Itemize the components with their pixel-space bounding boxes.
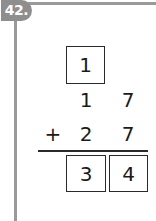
answer-tens-box[interactable]: 3: [66, 155, 106, 192]
addend2-tens: 2: [71, 122, 101, 146]
addend1-tens: 1: [71, 88, 101, 112]
answer-ones-box[interactable]: 4: [109, 155, 148, 192]
plus-operator: +: [38, 122, 68, 146]
sum-rule-line: [38, 150, 148, 152]
top-border-line: [28, 2, 156, 5]
carry-digit: 1: [79, 53, 92, 77]
answer-tens-digit: 3: [80, 162, 93, 186]
addend1-ones: 7: [113, 88, 143, 112]
carry-box[interactable]: 1: [66, 46, 105, 84]
answer-ones-digit: 4: [122, 162, 135, 186]
left-border-line: [14, 18, 17, 221]
problem-number-badge: 42.: [1, 0, 32, 21]
addend2-ones: 7: [113, 122, 143, 146]
